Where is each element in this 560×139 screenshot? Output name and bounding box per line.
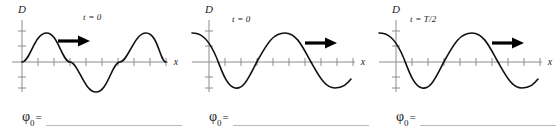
phi-subscript: 0 xyxy=(404,118,409,128)
wave-panel: D x t = T/2 φ0= xyxy=(374,0,560,139)
x-axis-label: x xyxy=(547,56,553,67)
time-label: t = 0 xyxy=(83,12,102,22)
propagation-arrow-icon xyxy=(58,36,90,47)
answer-blank[interactable] xyxy=(46,125,182,126)
x-axis-label: x xyxy=(360,56,366,67)
phi-symbol: φ xyxy=(396,109,404,124)
propagation-arrow-icon xyxy=(305,38,337,49)
wave-plot: D x xyxy=(374,0,560,100)
phase-prompt: φ0= xyxy=(396,110,416,128)
equals-sign: = xyxy=(35,111,42,123)
x-axis-label: x xyxy=(173,56,179,67)
y-axis-label: D xyxy=(391,3,400,15)
wave-panel: D x t = 0 φ0= xyxy=(187,0,373,139)
phase-answer-row: φ0= xyxy=(22,110,182,128)
phase-answer-row: φ0= xyxy=(396,110,556,128)
phase-prompt: φ0= xyxy=(22,110,42,128)
figure-container: D x t = 0 φ0= xyxy=(0,0,560,139)
equals-sign: = xyxy=(409,111,416,123)
phase-prompt: φ0= xyxy=(209,110,229,128)
phi-symbol: φ xyxy=(209,109,217,124)
y-axis-label: D xyxy=(204,3,213,15)
time-label: t = 0 xyxy=(232,14,251,24)
wave-plot: D x xyxy=(187,0,373,100)
phi-subscript: 0 xyxy=(217,118,222,128)
phi-subscript: 0 xyxy=(30,118,35,128)
y-axis-label: D xyxy=(17,3,26,15)
wave-panel: D x t = 0 φ0= xyxy=(0,0,186,139)
answer-blank[interactable] xyxy=(420,125,556,126)
phi-symbol: φ xyxy=(22,109,30,124)
wave-svg: D x xyxy=(374,0,560,100)
propagation-arrow-icon xyxy=(492,38,524,49)
equals-sign: = xyxy=(222,111,229,123)
wave-svg: D x xyxy=(187,0,373,100)
phase-answer-row: φ0= xyxy=(209,110,369,128)
answer-blank[interactable] xyxy=(233,125,369,126)
time-label: t = T/2 xyxy=(410,14,436,24)
